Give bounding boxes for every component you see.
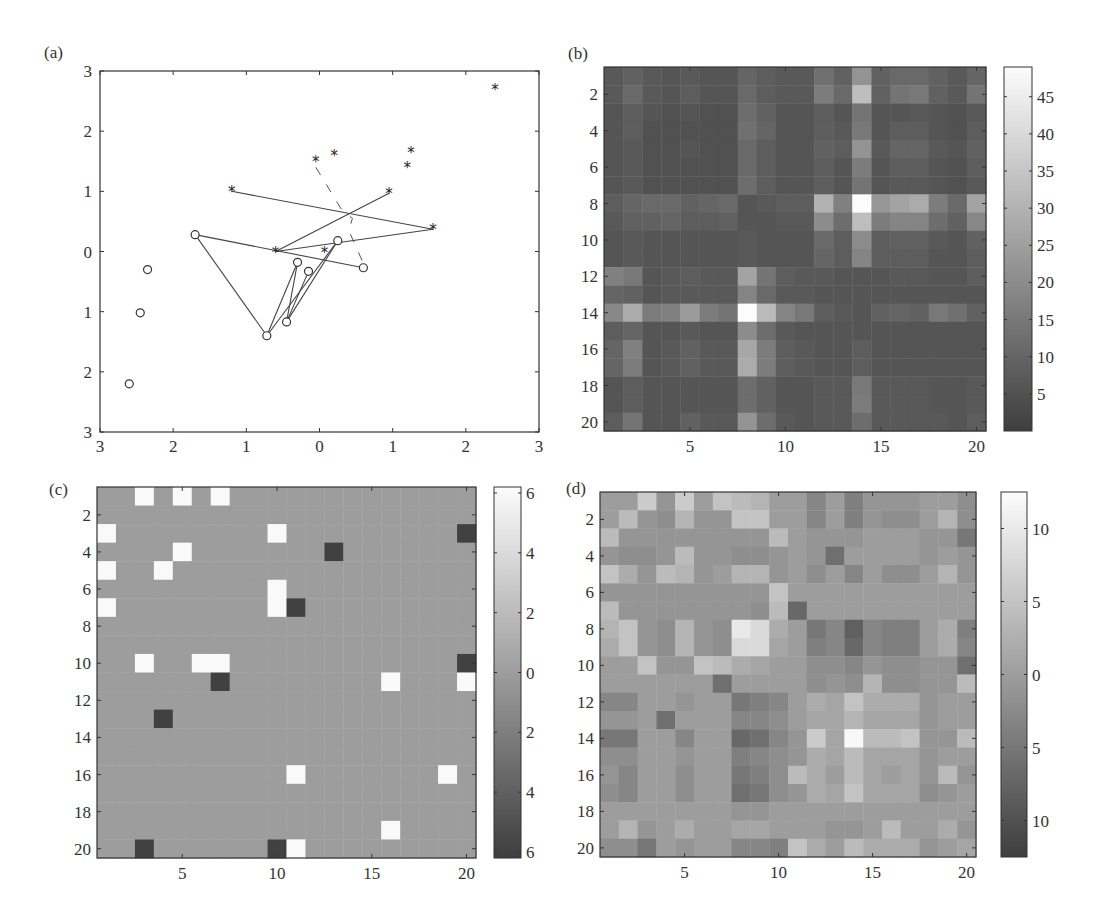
heatmap-cell xyxy=(957,784,976,803)
heatmap-cell xyxy=(948,340,968,359)
heatmap-cell xyxy=(948,376,968,395)
y-tick-label: 18 xyxy=(577,802,594,821)
heatmap-cell xyxy=(656,529,675,548)
heatmap-cell xyxy=(700,395,720,414)
heatmap-cell xyxy=(249,839,268,858)
heatmap-cell xyxy=(192,710,211,729)
heatmap-cell xyxy=(769,529,788,548)
heatmap-cell xyxy=(230,506,249,525)
heatmap-cell xyxy=(750,729,769,748)
heatmap-cell xyxy=(920,802,939,821)
heatmap-cell xyxy=(776,231,796,250)
heatmap-cell xyxy=(795,285,815,304)
heatmap-cell xyxy=(750,766,769,785)
heatmap-panel-c: 510152024681012141618206420246 xyxy=(74,484,535,883)
heatmap-cell xyxy=(97,747,116,766)
heatmap-cell xyxy=(438,635,457,654)
heatmap-cell xyxy=(287,728,306,747)
y-tick-label: 10 xyxy=(581,231,598,250)
heatmap-cell xyxy=(795,67,815,86)
heatmap-cell xyxy=(814,67,834,86)
heatmap-cell xyxy=(852,267,872,286)
heatmap-cell xyxy=(249,691,268,710)
colorbar-tick-label: 45 xyxy=(1037,88,1054,107)
heatmap-cell xyxy=(268,524,287,543)
heatmap-cell xyxy=(901,839,920,858)
heatmap-cell xyxy=(661,194,681,213)
heatmap-cell xyxy=(891,194,911,213)
heatmap-cell xyxy=(871,249,891,268)
heatmap-cell xyxy=(882,711,901,730)
heatmap-cell xyxy=(957,602,976,621)
heatmap-cell xyxy=(769,748,788,767)
heatmap-cell xyxy=(694,766,713,785)
heatmap-cell xyxy=(268,635,287,654)
heatmap-cell xyxy=(230,635,249,654)
heatmap-cell xyxy=(694,529,713,548)
heatmap-cell xyxy=(844,510,863,529)
heatmap-cell xyxy=(623,376,643,395)
heatmap-cell xyxy=(419,617,438,636)
heatmap-cell xyxy=(929,249,949,268)
heatmap-cell xyxy=(619,583,638,602)
y-tick-label: 12 xyxy=(74,691,91,710)
heatmap-cell xyxy=(750,565,769,584)
heatmap-cell xyxy=(757,285,777,304)
heatmap-cell xyxy=(642,213,662,232)
heatmap-cell xyxy=(788,656,807,675)
heatmap-cell xyxy=(929,158,949,177)
heatmap-cell xyxy=(135,654,154,673)
heatmap-cell xyxy=(891,358,911,377)
heatmap-cell xyxy=(750,784,769,803)
circle-marker xyxy=(334,237,342,245)
heatmap-cell xyxy=(807,675,826,694)
heatmap-cell xyxy=(116,543,135,562)
heatmap-cell xyxy=(680,213,700,232)
heatmap-cell xyxy=(750,583,769,602)
heatmap-cell xyxy=(788,821,807,840)
heatmap-cell xyxy=(97,784,116,803)
heatmap-cell xyxy=(871,85,891,104)
y-tick-label: 14 xyxy=(581,304,599,323)
heatmap-cell xyxy=(738,140,758,159)
heatmap-cell xyxy=(700,413,720,432)
heatmap-cell xyxy=(97,487,116,506)
heatmap-cell xyxy=(882,675,901,694)
heatmap-cell xyxy=(757,176,777,195)
heatmap-cell xyxy=(807,802,826,821)
heatmap-cell xyxy=(419,710,438,729)
heatmap-cell xyxy=(642,249,662,268)
connecting-line xyxy=(287,271,309,322)
heatmap-cell xyxy=(929,285,949,304)
heatmap-cell xyxy=(173,506,192,525)
heatmap-cell xyxy=(211,617,230,636)
heatmap-cell xyxy=(154,617,173,636)
heatmap-cell xyxy=(154,598,173,617)
x-tick-label: 20 xyxy=(958,863,975,882)
heatmap-cell xyxy=(814,158,834,177)
heatmap-cell xyxy=(844,565,863,584)
heatmap-cell xyxy=(863,821,882,840)
heatmap-cell xyxy=(967,103,987,122)
y-tick-label: 12 xyxy=(581,267,598,286)
heatmap-cell xyxy=(938,766,957,785)
heatmap-cell xyxy=(362,691,381,710)
heatmap-cell xyxy=(957,711,976,730)
heatmap-cell xyxy=(948,358,968,377)
heatmap-cell xyxy=(154,728,173,747)
colorbar-tick-label: 5 xyxy=(1032,739,1041,758)
y-tick-label: 3 xyxy=(84,423,93,442)
heatmap-cell xyxy=(719,231,739,250)
heatmap-cell xyxy=(700,285,720,304)
heatmap-cell xyxy=(844,529,863,548)
colorbar xyxy=(1001,492,1027,857)
heatmap-cell xyxy=(675,675,694,694)
heatmap-cell xyxy=(700,85,720,104)
heatmap-cell xyxy=(381,747,400,766)
heatmap-cell xyxy=(700,122,720,141)
heatmap-cell xyxy=(305,802,324,821)
heatmap-cell xyxy=(642,231,662,250)
heatmap-cell xyxy=(287,802,306,821)
heatmap-cell xyxy=(619,510,638,529)
heatmap-cell xyxy=(638,638,657,657)
